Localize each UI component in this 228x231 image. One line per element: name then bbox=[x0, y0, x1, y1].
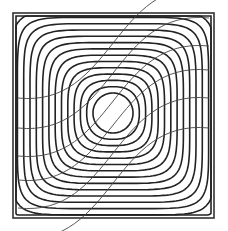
contour-line bbox=[17, 17, 208, 208]
contour-line bbox=[62, 62, 165, 165]
contour-diagram bbox=[0, 0, 228, 231]
contour-line bbox=[80, 80, 145, 145]
contour-line bbox=[74, 74, 152, 152]
contour-lines bbox=[16, 16, 211, 215]
contour-line bbox=[36, 36, 189, 189]
contour-line bbox=[93, 93, 133, 133]
